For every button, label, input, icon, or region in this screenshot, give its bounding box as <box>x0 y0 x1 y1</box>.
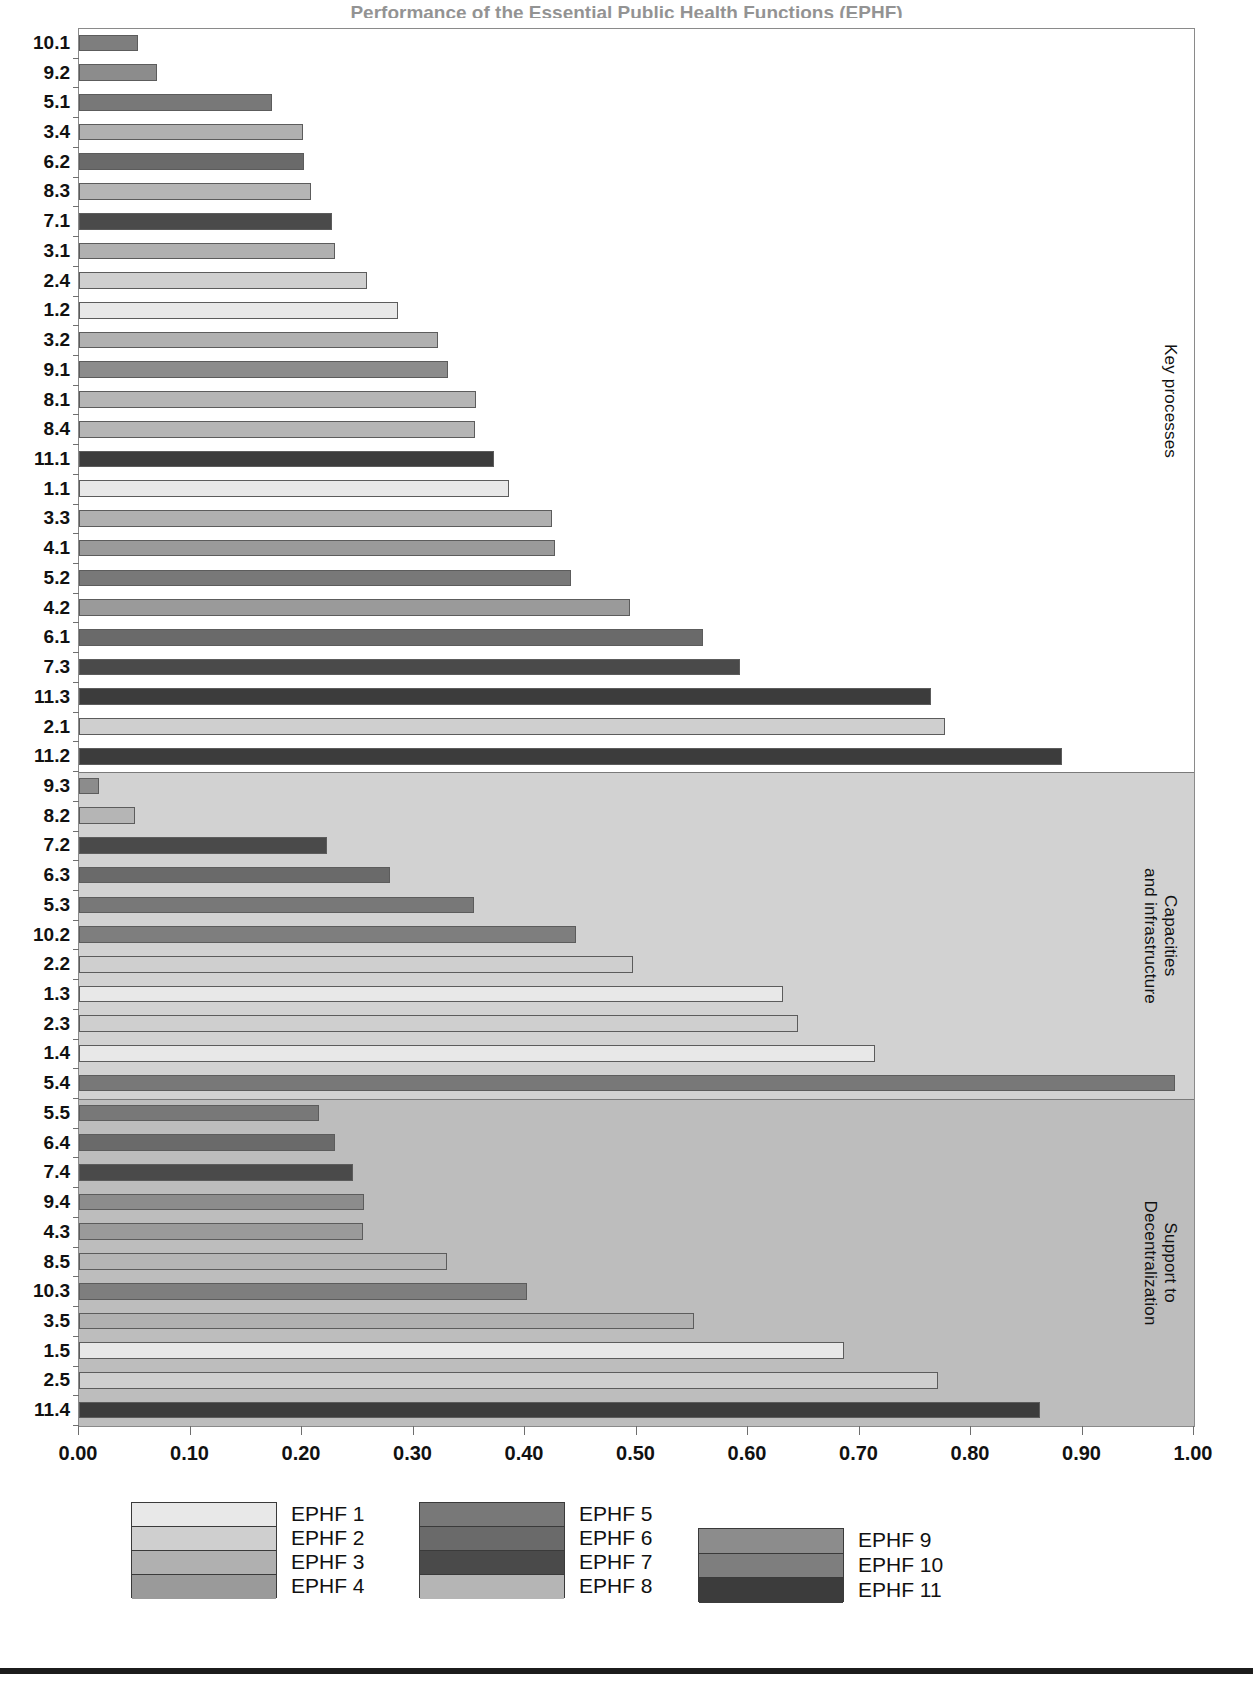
y-axis-label-2.1: 2.1 <box>44 717 70 736</box>
bar-2.2 <box>79 956 633 973</box>
bar-row <box>79 1277 1194 1307</box>
bar-row <box>79 386 1194 416</box>
y-axis-label-5.5: 5.5 <box>44 1103 70 1122</box>
y-axis-label-2.2: 2.2 <box>44 954 70 973</box>
legend-swatch-stack <box>131 1502 277 1598</box>
y-axis-label-11.1: 11.1 <box>34 449 70 468</box>
legend-swatch-ephf-2 <box>132 1527 276 1551</box>
chart-plot-area: Key processesCapacitiesand infrastructur… <box>78 28 1195 1427</box>
x-axis-label-0.00: 0.00 <box>59 1442 98 1465</box>
bar-row <box>79 713 1194 743</box>
x-tick <box>301 1426 302 1435</box>
y-axis-label-4.3: 4.3 <box>44 1222 70 1241</box>
y-axis-label-7.3: 7.3 <box>44 657 70 676</box>
x-axis-label-0.70: 0.70 <box>839 1442 878 1465</box>
x-axis-label-0.80: 0.80 <box>951 1442 990 1465</box>
x-axis-label-0.60: 0.60 <box>728 1442 767 1465</box>
bar-rows <box>79 29 1194 1426</box>
legend-swatch-ephf-11 <box>699 1578 843 1603</box>
y-axis-label-9.2: 9.2 <box>44 63 70 82</box>
bar-row <box>79 505 1194 535</box>
y-axis-label-11.4: 11.4 <box>34 1400 70 1419</box>
bar-9.2 <box>79 64 157 81</box>
bar-11.2 <box>79 748 1062 765</box>
y-axis-label-10.3: 10.3 <box>33 1281 70 1300</box>
legend-label-ephf-7: EPHF 7 <box>579 1550 653 1574</box>
bar-row <box>79 1218 1194 1248</box>
bar-3.1 <box>79 243 335 260</box>
bar-8.3 <box>79 183 311 200</box>
legend-label-ephf-8: EPHF 8 <box>579 1574 653 1598</box>
bar-11.1 <box>79 451 494 468</box>
bar-5.1 <box>79 94 272 111</box>
y-axis-label-3.1: 3.1 <box>44 241 70 260</box>
x-tick <box>1193 1426 1194 1435</box>
y-axis-label-9.4: 9.4 <box>44 1192 70 1211</box>
y-axis-label-8.1: 8.1 <box>44 390 70 409</box>
bar-4.3 <box>79 1223 363 1240</box>
bar-row <box>79 148 1194 178</box>
x-tick <box>859 1426 860 1435</box>
bar-row <box>79 594 1194 624</box>
bar-row <box>79 1396 1194 1426</box>
bar-row <box>79 1129 1194 1159</box>
y-axis-label-8.4: 8.4 <box>44 419 70 438</box>
legend-swatch-ephf-9 <box>699 1529 843 1554</box>
bar-row <box>79 88 1194 118</box>
bar-2.1 <box>79 718 945 735</box>
bar-1.3 <box>79 986 783 1003</box>
y-axis-label-7.4: 7.4 <box>44 1162 70 1181</box>
legend-label-ephf-10: EPHF 10 <box>858 1553 943 1578</box>
bar-row <box>79 1367 1194 1397</box>
bar-row <box>79 207 1194 237</box>
bar-8.4 <box>79 421 475 438</box>
bar-row <box>79 1010 1194 1040</box>
bar-6.4 <box>79 1134 335 1151</box>
legend-label-ephf-5: EPHF 5 <box>579 1502 653 1526</box>
y-axis-label-7.1: 7.1 <box>44 211 70 230</box>
bar-row <box>79 445 1194 475</box>
x-tick <box>190 1426 191 1435</box>
bar-8.5 <box>79 1253 447 1270</box>
y-axis-label-10.1: 10.1 <box>33 33 70 52</box>
y-axis-label-1.1: 1.1 <box>44 479 70 498</box>
x-tick <box>524 1426 525 1435</box>
chart-legend: EPHF 1EPHF 2EPHF 3EPHF 4EPHF 5EPHF 6EPHF… <box>0 1498 1253 1648</box>
bar-row <box>79 1337 1194 1367</box>
y-axis-label-1.4: 1.4 <box>44 1043 70 1062</box>
bar-4.2 <box>79 599 630 616</box>
y-axis-label-8.2: 8.2 <box>44 806 70 825</box>
bar-row <box>79 415 1194 445</box>
bar-7.3 <box>79 659 740 676</box>
legend-text-stack: EPHF 9EPHF 10EPHF 11 <box>858 1528 943 1602</box>
x-axis-label-0.20: 0.20 <box>282 1442 321 1465</box>
y-axis-label-3.4: 3.4 <box>44 122 70 141</box>
bar-row <box>79 861 1194 891</box>
legend-label-ephf-2: EPHF 2 <box>291 1526 365 1550</box>
x-axis-label-0.30: 0.30 <box>393 1442 432 1465</box>
bar-row <box>79 1188 1194 1218</box>
bar-3.5 <box>79 1313 694 1330</box>
bar-10.1 <box>79 35 138 52</box>
bar-2.5 <box>79 1372 938 1389</box>
bar-row <box>79 772 1194 802</box>
bar-row <box>79 1158 1194 1188</box>
y-axis-label-1.5: 1.5 <box>44 1341 70 1360</box>
y-axis-label-3.5: 3.5 <box>44 1311 70 1330</box>
legend-swatch-ephf-6 <box>420 1527 564 1551</box>
bar-row <box>79 980 1194 1010</box>
x-axis: 0.000.100.200.300.400.500.600.700.800.90… <box>78 1426 1193 1486</box>
legend-label-ephf-6: EPHF 6 <box>579 1526 653 1550</box>
bar-3.4 <box>79 124 303 141</box>
page-bottom-rule <box>0 1668 1253 1674</box>
y-axis-label-5.4: 5.4 <box>44 1073 70 1092</box>
bar-3.2 <box>79 332 438 349</box>
y-axis-label-9.3: 9.3 <box>44 776 70 795</box>
legend-text-stack: EPHF 1EPHF 2EPHF 3EPHF 4 <box>291 1502 365 1598</box>
y-axis-label-4.1: 4.1 <box>44 538 70 557</box>
bar-row <box>79 653 1194 683</box>
bar-8.2 <box>79 807 135 824</box>
bar-2.3 <box>79 1015 798 1032</box>
y-axis-label-6.1: 6.1 <box>44 627 70 646</box>
bar-row <box>79 59 1194 89</box>
